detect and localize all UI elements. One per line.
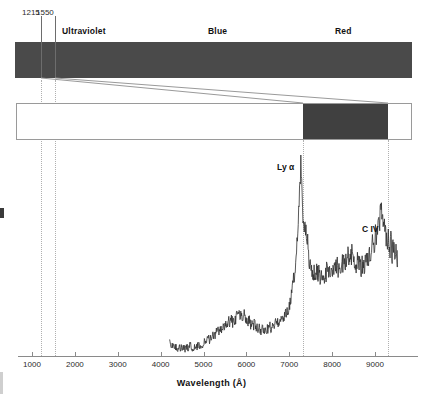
x-tick-3000	[118, 352, 119, 357]
x-tick-label-3000: 3000	[109, 360, 127, 369]
x-tick-label-8000: 8000	[323, 360, 341, 369]
x-tick-2000	[75, 352, 76, 357]
cropped-axis-fragment	[0, 372, 3, 394]
band-label-red: Red	[335, 26, 352, 36]
x-tick-label-9000: 9000	[366, 360, 384, 369]
peak-label-c-iv: C IV	[362, 224, 379, 234]
redshifted-region-fill	[303, 104, 388, 139]
x-tick-9000	[375, 352, 376, 357]
x-tick-7000	[289, 352, 290, 357]
inset-guide-1	[303, 140, 304, 356]
zoom-connector-2	[55, 78, 388, 103]
top-marker-line-1550	[55, 16, 56, 78]
x-tick-4000	[161, 352, 162, 357]
x-axis-title: Wavelength (Å)	[177, 378, 246, 388]
visible-spectrum-band	[15, 42, 412, 78]
x-tick-8000	[332, 352, 333, 357]
top-marker-line-1215	[41, 16, 42, 78]
band-label-ultraviolet: Ultraviolet	[62, 26, 106, 36]
quasar-spectrum-figure: UltravioletBlueRed1215155010002000300040…	[0, 0, 426, 402]
x-tick-label-6000: 6000	[237, 360, 255, 369]
band-label-blue: Blue	[208, 26, 227, 36]
x-tick-label-2000: 2000	[66, 360, 84, 369]
spectrum-path	[170, 155, 398, 352]
x-tick-label-4000: 4000	[152, 360, 170, 369]
x-axis-line	[18, 356, 418, 357]
cropped-ylabel-mark	[0, 208, 4, 218]
x-tick-1000	[32, 352, 33, 357]
x-tick-label-7000: 7000	[280, 360, 298, 369]
x-tick-label-1000: 1000	[23, 360, 41, 369]
zoom-connector-1	[41, 78, 303, 103]
x-tick-5000	[204, 352, 205, 357]
inset-guide-2	[388, 140, 389, 356]
top-marker-label-1550: 1550	[36, 8, 54, 17]
x-tick-6000	[246, 352, 247, 357]
x-tick-label-5000: 5000	[195, 360, 213, 369]
peak-label-lyman-alpha: Ly α	[277, 162, 294, 172]
